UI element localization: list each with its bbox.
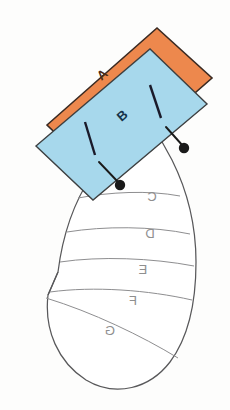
marker-dot-left bbox=[115, 180, 125, 190]
segment-label-f: F bbox=[129, 293, 137, 308]
segment-label-e: E bbox=[138, 262, 147, 277]
diagram-canvas: C D E F G A B bbox=[0, 0, 230, 410]
figure-container: C D E F G A B bbox=[0, 0, 230, 410]
marker-dot-right bbox=[179, 143, 189, 153]
segment-label-g: G bbox=[105, 323, 115, 338]
segment-label-d: D bbox=[145, 226, 154, 241]
segment-label-c: C bbox=[147, 189, 156, 204]
